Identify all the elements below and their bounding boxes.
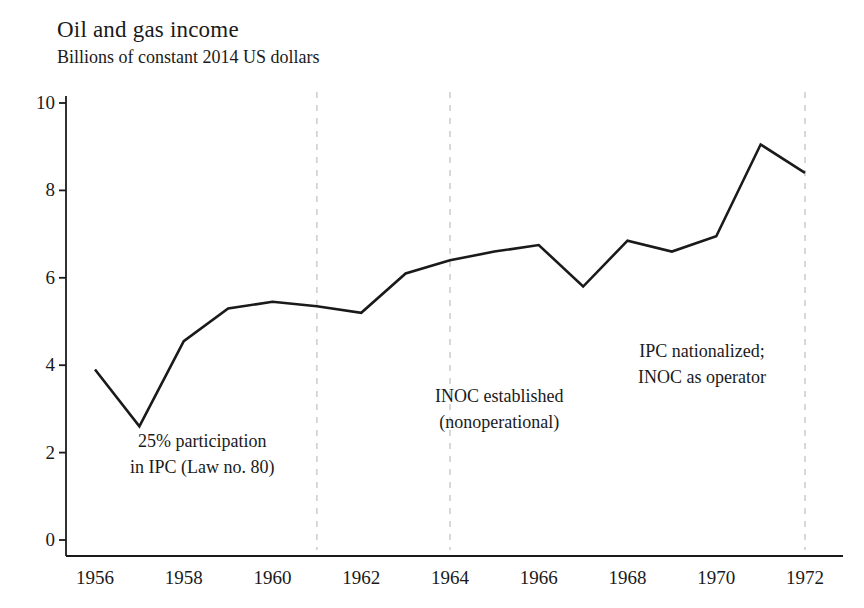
x-axis-tick-label: 1964 <box>410 568 490 587</box>
event-annotation-line2: in IPC (Law no. 80) <box>130 454 274 480</box>
event-annotation-line2: (nonoperational) <box>435 409 563 435</box>
y-axis-tick-label: 2 <box>15 443 55 462</box>
x-axis-tick-label: 1962 <box>321 568 401 587</box>
x-axis-tick-label: 1970 <box>676 568 756 587</box>
event-annotation: 25% participationin IPC (Law no. 80) <box>130 428 274 480</box>
event-annotation-line2: INOC as operator <box>638 364 766 390</box>
x-axis-tick-label: 1966 <box>499 568 579 587</box>
line-chart-plot <box>0 0 864 608</box>
event-annotation-line1: INOC established <box>435 383 563 409</box>
y-axis-tick-label: 10 <box>15 93 55 112</box>
x-axis-tick-label: 1960 <box>233 568 313 587</box>
event-annotation-line1: 25% participation <box>130 428 274 454</box>
y-axis-tick-label: 0 <box>15 530 55 549</box>
x-axis-tick-label: 1968 <box>588 568 668 587</box>
x-axis-tick-label: 1958 <box>144 568 224 587</box>
y-axis-tick-label: 4 <box>15 355 55 374</box>
y-axis-tick-label: 6 <box>15 268 55 287</box>
event-annotation-line1: IPC nationalized; <box>638 338 766 364</box>
event-annotation: IPC nationalized;INOC as operator <box>638 338 766 390</box>
x-axis-tick-label: 1972 <box>765 568 845 587</box>
y-axis-tick-label: 8 <box>15 180 55 199</box>
event-annotation: INOC established(nonoperational) <box>435 383 563 435</box>
chart-page: Oil and gas income Billions of constant … <box>0 0 864 608</box>
x-axis-tick-label: 1956 <box>55 568 135 587</box>
